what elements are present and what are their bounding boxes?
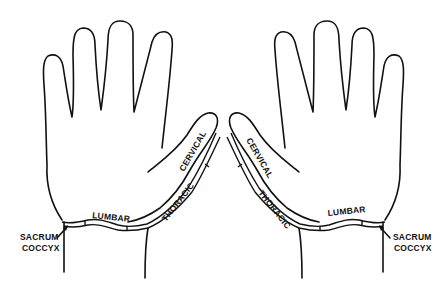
left-label-sacrum: SACRUM (20, 232, 59, 242)
left-hand-outline (43, 21, 172, 220)
hand-spine-diagram: LUMBAR SACRUM COCCYX THORACIC CERVICAL L… (0, 0, 447, 289)
left-hand: LUMBAR SACRUM COCCYX THORACIC CERVICAL (20, 21, 220, 278)
left-wrist-right-line (145, 228, 148, 278)
right-hand-outline (275, 21, 404, 220)
right-label-sacrum: SACRUM (393, 232, 432, 242)
left-label-lumbar: LUMBAR (92, 210, 131, 224)
left-label-thoracic: THORACIC (160, 180, 196, 223)
left-label-coccyx: COCCYX (22, 243, 60, 253)
right-label-coccyx: COCCYX (394, 243, 432, 253)
right-wrist-inner-line (299, 228, 302, 278)
right-label-thoracic: THORACIC (256, 188, 292, 231)
right-label-lumbar: LUMBAR (327, 204, 366, 218)
